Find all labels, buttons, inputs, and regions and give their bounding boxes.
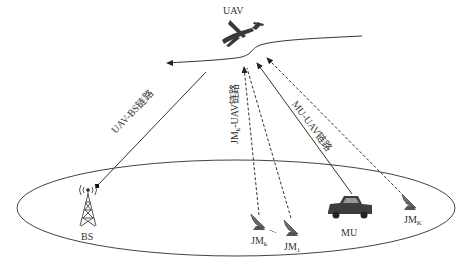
jmK-uav-link xyxy=(267,58,404,196)
trajectory-arrowhead-icon xyxy=(166,60,173,66)
jm-uav-link-label: JMk-UAV链路 xyxy=(230,84,242,144)
mu-label: MU xyxy=(341,228,357,238)
jm1-uav-link xyxy=(247,68,291,218)
jm1-label: JM1 xyxy=(284,242,300,254)
jmk-uav-link xyxy=(244,67,259,215)
mu-uav-link xyxy=(257,63,352,194)
bs-tower-icon xyxy=(80,185,97,226)
uav-trajectory xyxy=(168,36,362,63)
bs-label: BS xyxy=(81,232,93,242)
uav-label: UAV xyxy=(223,6,243,16)
jmk-label: JMk xyxy=(251,236,267,248)
uav-icon xyxy=(222,20,264,47)
jmK-label: JMK xyxy=(404,215,422,227)
jmK-dish-icon xyxy=(402,194,416,210)
mu-truck-icon xyxy=(328,196,372,219)
jmk-dish-icon xyxy=(251,214,265,230)
jm1-dish-icon xyxy=(284,220,298,236)
